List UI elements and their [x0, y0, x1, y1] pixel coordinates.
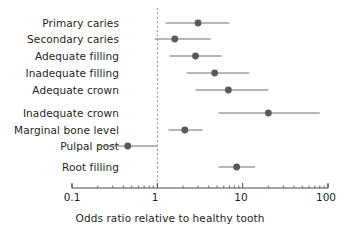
- data-row-pulpal-post: [98, 143, 158, 150]
- odds-ratio-marker: [225, 87, 232, 94]
- odds-ratio-marker: [171, 36, 178, 43]
- data-series-group: [98, 20, 320, 171]
- data-row-secondary-caries: [155, 36, 211, 43]
- odds-ratio-marker: [195, 20, 202, 27]
- forest-plot-figure: Primary caries Secondary caries Adequate…: [0, 0, 340, 234]
- odds-ratio-marker: [211, 70, 218, 77]
- odds-ratio-marker: [192, 53, 199, 60]
- odds-ratio-marker: [233, 164, 240, 171]
- odds-ratio-marker: [181, 127, 188, 134]
- odds-ratio-marker: [124, 143, 131, 150]
- data-row-inadequate-crown: [218, 110, 319, 117]
- data-row-adequate-filling: [170, 53, 222, 60]
- x-axis-group: [72, 183, 328, 188]
- plot-area: [0, 0, 340, 234]
- x-tick-label-10: 10: [234, 191, 247, 203]
- x-tick-label-1: 1: [152, 191, 159, 203]
- data-row-marginal-bone-level: [168, 127, 202, 134]
- data-row-inadequate-filling: [187, 70, 250, 77]
- data-row-adequate-crown: [195, 87, 268, 94]
- odds-ratio-marker: [265, 110, 272, 117]
- x-tick-label-0.1: 0.1: [64, 191, 81, 203]
- data-row-primary-caries: [166, 20, 230, 27]
- x-axis-title: Odds ratio relative to healthy tooth: [0, 212, 340, 224]
- x-tick-label-100: 100: [316, 191, 336, 203]
- data-row-root-filling: [218, 164, 255, 171]
